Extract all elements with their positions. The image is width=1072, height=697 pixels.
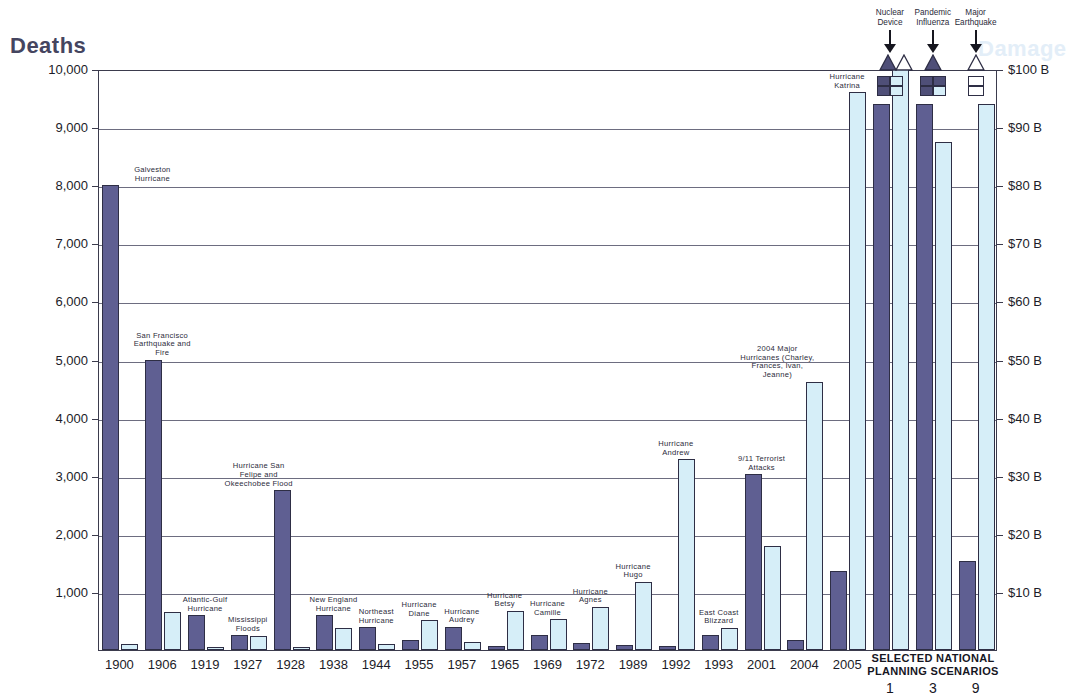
right-tick-label: $30 B	[1008, 469, 1072, 484]
scenario-number: 3	[913, 680, 953, 696]
bar-deaths[interactable]	[830, 571, 847, 650]
right-tick-label: $40 B	[1008, 411, 1072, 426]
bar-deaths[interactable]	[573, 643, 590, 650]
bar-damage[interactable]	[121, 644, 138, 650]
bar-deaths[interactable]	[702, 635, 719, 650]
right-tick-label: $90 B	[1008, 120, 1072, 135]
scenario-triangle-marker	[924, 54, 942, 71]
scenario-severity-icon	[877, 76, 903, 96]
left-tick-label: 4,000	[10, 411, 88, 426]
bar-callout: Galveston Hurricane	[113, 166, 191, 183]
bar-damage[interactable]	[207, 647, 224, 650]
bar-deaths[interactable]	[445, 627, 462, 650]
right-tick-label: $20 B	[1008, 527, 1072, 542]
severity-cell	[933, 86, 946, 96]
bar-damage[interactable]	[721, 628, 738, 650]
bar-deaths[interactable]	[959, 561, 976, 650]
bar-deaths[interactable]	[402, 640, 419, 650]
severity-cell	[920, 76, 933, 86]
bar-callout: 2004 Major Hurricanes (Charley, Frances,…	[728, 345, 826, 379]
bar-deaths[interactable]	[659, 646, 676, 650]
bar-callout: Hurricane Katrina	[808, 73, 886, 90]
right-tick-mark	[996, 302, 1003, 303]
bar-deaths[interactable]	[488, 646, 505, 650]
bar-damage[interactable]	[335, 628, 352, 650]
severity-cell	[933, 76, 946, 86]
bar-damage[interactable]	[764, 546, 781, 650]
bar-damage[interactable]	[978, 104, 995, 650]
bar-damage[interactable]	[550, 619, 567, 650]
bar-deaths[interactable]	[188, 615, 205, 650]
bar-damage[interactable]	[935, 142, 952, 650]
bar-callout: Mississippi Floods	[209, 616, 287, 633]
right-tick-label: $80 B	[1008, 178, 1072, 193]
left-tick-label: 5,000	[10, 353, 88, 368]
arrow-head	[970, 44, 982, 53]
right-tick-mark	[996, 186, 1003, 187]
bar-damage[interactable]	[378, 644, 395, 650]
severity-cell	[877, 76, 890, 86]
bar-deaths[interactable]	[916, 104, 933, 650]
left-tick-label: 3,000	[10, 469, 88, 484]
right-tick-label: $50 B	[1008, 353, 1072, 368]
left-axis-title: Deaths	[10, 33, 86, 59]
bar-damage[interactable]	[806, 382, 823, 650]
severity-cell	[890, 86, 903, 96]
arrow-shaft	[975, 30, 977, 45]
left-tick-label: 1,000	[10, 585, 88, 600]
right-tick-mark	[996, 244, 1003, 245]
bar-callout: East Coast Blizzard	[680, 609, 758, 626]
bar-damage[interactable]	[421, 620, 438, 650]
scenario-number: 9	[956, 680, 996, 696]
annotation-arrow-icon	[927, 30, 939, 54]
bar-deaths[interactable]	[316, 615, 333, 650]
right-tick-label: $100 B	[1008, 62, 1072, 77]
left-tick-label: 8,000	[10, 178, 88, 193]
left-tick-label: 2,000	[10, 527, 88, 542]
bar-deaths[interactable]	[102, 185, 119, 650]
arrow-shaft	[889, 30, 891, 45]
bar-damage[interactable]	[250, 636, 267, 650]
bar-deaths[interactable]	[359, 627, 376, 650]
right-tick-label: $70 B	[1008, 236, 1072, 251]
bar-callout: Hurricane Audrey	[423, 608, 501, 625]
bar-deaths[interactable]	[787, 640, 804, 650]
plot-area	[98, 70, 997, 651]
scenario-annotation-label: Major Earthquake	[931, 8, 1021, 27]
severity-cell	[968, 86, 984, 96]
right-tick-label: $10 B	[1008, 585, 1072, 600]
bar-callout: San Francisco Earthquake and Fire	[120, 332, 204, 358]
right-tick-mark	[996, 361, 1003, 362]
bar-deaths[interactable]	[531, 635, 548, 650]
scenario-severity-icon	[968, 76, 984, 96]
left-tick-label: 7,000	[10, 236, 88, 251]
bar-damage[interactable]	[892, 69, 909, 650]
bar-callout: Hurricane Hugo	[594, 563, 672, 580]
bar-damage[interactable]	[464, 642, 481, 650]
severity-cell	[877, 86, 890, 96]
bar-damage[interactable]	[849, 92, 866, 650]
bar-damage[interactable]	[592, 607, 609, 650]
bar-deaths[interactable]	[616, 645, 633, 650]
bar-deaths[interactable]	[873, 104, 890, 650]
arrow-shaft	[932, 30, 934, 45]
bar-damage[interactable]	[293, 647, 310, 650]
arrow-head	[927, 44, 939, 53]
bar-deaths[interactable]	[145, 360, 162, 651]
right-tick-mark	[996, 70, 1003, 71]
bar-damage[interactable]	[164, 612, 181, 650]
bar-deaths[interactable]	[231, 635, 248, 650]
right-tick-mark	[996, 419, 1003, 420]
bar-callout: Hurricane Agnes	[551, 588, 629, 605]
severity-cell	[920, 86, 933, 96]
bar-callout: Hurricane Andrew	[637, 440, 715, 457]
bar-callout: 9/11 Terrorist Attacks	[723, 455, 801, 472]
arrow-head	[884, 44, 896, 53]
severity-cell	[890, 76, 903, 86]
left-tick-label: 10,000	[10, 62, 88, 77]
right-axis-title: Damage	[978, 36, 1067, 62]
scenario-triangle-marker	[967, 54, 985, 71]
scenario-severity-icon	[920, 76, 946, 96]
bar-damage[interactable]	[635, 582, 652, 650]
scenario-header: SELECTED NATIONAL PLANNING SCENARIOS	[858, 652, 1008, 678]
